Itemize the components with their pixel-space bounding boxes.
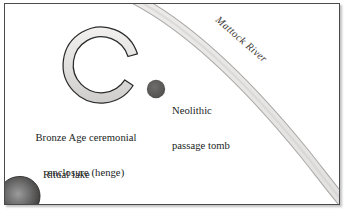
archaeological-site-map: Bronze Age ceremonial enclosure (henge) …	[0, 0, 347, 212]
label-tomb-line-1: Neolithic	[172, 105, 282, 117]
label-henge-line-1: Bronze Age ceremonial	[13, 132, 159, 144]
label-tomb-line-2: passage tomb	[172, 140, 282, 152]
label-neolithic-passage-tomb: Neolithic passage tomb	[172, 81, 282, 176]
neolithic-passage-tomb-marker	[147, 80, 165, 98]
map-frame: Bronze Age ceremonial enclosure (henge) …	[4, 3, 340, 205]
label-bronze-age-henge: Bronze Age ceremonial enclosure (henge)	[13, 108, 159, 203]
bronze-age-henge-ring	[63, 27, 137, 103]
label-ritual-lake: Ritual lake	[43, 169, 90, 181]
